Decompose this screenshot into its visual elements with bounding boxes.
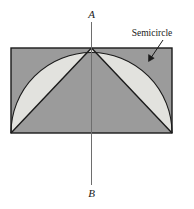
semicircle-callout-label: Semicircle bbox=[132, 28, 173, 38]
figure-container: A B Semicircle bbox=[0, 0, 194, 209]
bottom-axis-label: B bbox=[88, 187, 95, 199]
top-axis-label: A bbox=[87, 8, 95, 20]
semicircle-rectangle-figure: A B Semicircle bbox=[0, 0, 194, 209]
